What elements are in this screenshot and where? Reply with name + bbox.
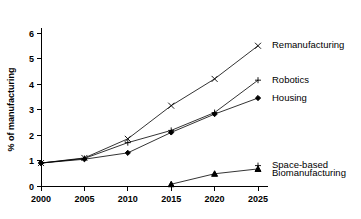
- series-labels: RemanufacturingRoboticsHousingSpace-base…: [272, 39, 346, 178]
- series-label-biomanufacturing: Biomanufacturing: [272, 167, 346, 178]
- chart-series: [38, 43, 261, 187]
- x-tick-label: 2005: [74, 194, 94, 204]
- y-tick-label: 6: [29, 29, 34, 39]
- y-axis-ticks: 0123456: [29, 29, 41, 192]
- y-axis-title-text: % of manufacturing: [6, 67, 16, 151]
- y-tick-label: 5: [29, 54, 34, 64]
- data-point-marker: [255, 43, 261, 49]
- y-tick-label: 2: [29, 131, 34, 141]
- chart-container: 0123456 200020052010201520202025 Remanuf…: [0, 0, 361, 219]
- x-tick-label: 2015: [161, 194, 181, 204]
- x-axis-ticks: 200020052010201520202025: [31, 186, 268, 204]
- series-remanufacturing: [38, 43, 261, 166]
- data-point-marker: [168, 103, 174, 109]
- y-tick-label: 4: [29, 80, 34, 90]
- x-tick-label: 2025: [248, 194, 268, 204]
- data-point-marker: [255, 166, 261, 172]
- series-label-housing: Housing: [272, 92, 307, 103]
- series-biomanufacturing: [168, 166, 261, 187]
- series-line: [41, 80, 258, 163]
- data-point-marker: [255, 95, 260, 100]
- y-tick-label: 0: [29, 182, 34, 192]
- x-tick-label: 2010: [118, 194, 138, 204]
- x-tick-label: 2020: [205, 194, 225, 204]
- data-point-marker: [125, 150, 130, 155]
- series-label-remanufacturing: Remanufacturing: [272, 39, 344, 50]
- line-chart: 0123456 200020052010201520202025 Remanuf…: [0, 0, 361, 219]
- y-axis-title: % of manufacturing: [6, 67, 16, 151]
- data-point-marker: [212, 76, 218, 82]
- series-label-robotics: Robotics: [272, 74, 309, 85]
- y-tick-label: 1: [29, 156, 34, 166]
- y-tick-label: 3: [29, 105, 34, 115]
- series-robotics: [38, 77, 261, 166]
- data-point-marker: [255, 77, 261, 83]
- x-tick-label: 2000: [31, 194, 51, 204]
- series-line: [41, 98, 258, 163]
- series-housing: [38, 95, 260, 165]
